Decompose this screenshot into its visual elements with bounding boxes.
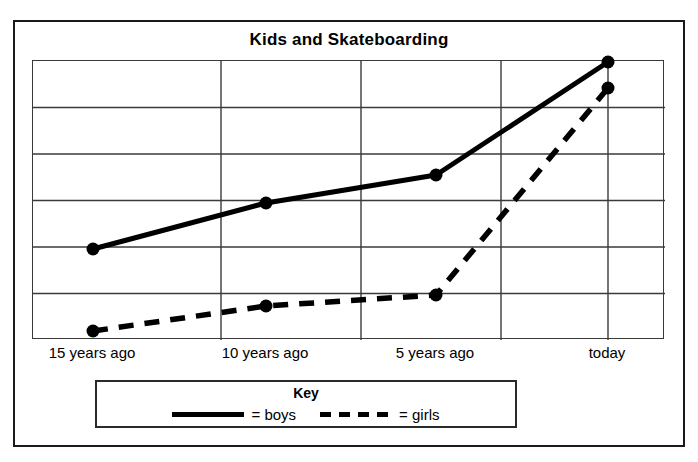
legend-title: Key bbox=[97, 385, 515, 401]
data-point-boys-1 bbox=[260, 197, 273, 210]
series-line-girls bbox=[93, 88, 608, 331]
series-markers-boys bbox=[87, 56, 615, 256]
x-tick-label-0: 15 years ago bbox=[49, 344, 136, 361]
legend-entries: = boys = girls bbox=[97, 406, 515, 423]
legend-swatch-solid-line-icon bbox=[172, 412, 244, 417]
chart-series-layer bbox=[33, 61, 665, 340]
data-point-boys-0 bbox=[87, 243, 100, 256]
data-point-girls-1 bbox=[260, 300, 273, 313]
x-tick-label-1: 10 years ago bbox=[222, 344, 309, 361]
chart-title: Kids and Skateboarding bbox=[13, 30, 685, 50]
legend-entry-girls: = girls bbox=[320, 406, 439, 423]
plot-area bbox=[32, 60, 664, 339]
data-point-boys-2 bbox=[430, 169, 443, 182]
x-axis-labels: 15 years ago 10 years ago 5 years ago to… bbox=[32, 344, 664, 366]
data-point-girls-2 bbox=[430, 289, 443, 302]
legend-swatch-dashed-line-icon bbox=[320, 412, 392, 417]
x-tick-label-3: today bbox=[589, 344, 626, 361]
legend-label-boys: = boys bbox=[251, 406, 296, 423]
legend-label-girls: = girls bbox=[399, 406, 439, 423]
scan-artifact bbox=[0, 0, 698, 12]
data-point-girls-3 bbox=[602, 82, 615, 95]
chart-legend: Key = boys = girls bbox=[95, 380, 517, 428]
data-point-boys-3 bbox=[602, 56, 615, 69]
legend-entry-boys: = boys bbox=[172, 406, 296, 423]
series-line-boys bbox=[93, 62, 608, 249]
series-markers-girls bbox=[87, 82, 615, 338]
x-tick-label-2: 5 years ago bbox=[396, 344, 474, 361]
data-point-girls-0 bbox=[87, 325, 100, 338]
worksheet-page: Kids and Skateboarding bbox=[0, 0, 698, 462]
